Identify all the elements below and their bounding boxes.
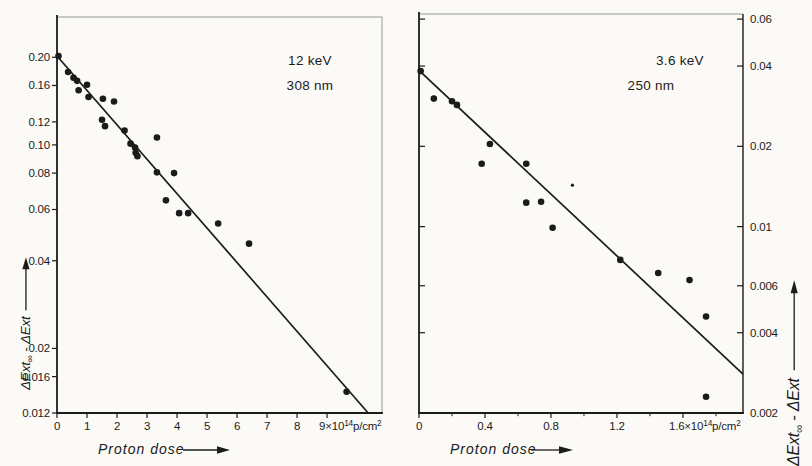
x-unit-label: 1.6×1014p/cm2 (669, 419, 741, 432)
data-point (538, 198, 545, 205)
x-tick-label: 0 (54, 420, 60, 432)
plots-canvas: 0.200.160.120.100.080.060.040.020.0160.0… (0, 0, 812, 466)
right-annotation-wavelength: 250 nm (596, 78, 706, 93)
x-tick-label: 1 (84, 420, 90, 432)
y-tick-label: 0.06 (750, 13, 772, 25)
x-tick-label: 7 (264, 420, 270, 432)
x-tick-label: 2 (114, 420, 120, 432)
data-point (703, 313, 710, 320)
data-point (343, 388, 350, 395)
data-point (154, 169, 161, 176)
y-tick-label: 0.04 (28, 255, 50, 267)
data-point (84, 81, 91, 88)
data-point (454, 102, 461, 109)
data-point (100, 96, 107, 103)
y-tick-label: 0.12 (28, 116, 50, 128)
data-point (134, 153, 141, 160)
x-tick-label: 1.2 (609, 420, 624, 432)
x-tick-label: 5 (204, 420, 210, 432)
data-point (55, 53, 62, 60)
data-point (478, 160, 485, 167)
right-arrow-icon (559, 446, 573, 454)
y-tick-label: 0.02 (750, 140, 772, 152)
data-point (703, 394, 710, 401)
y-tick-label: 0.006 (750, 280, 778, 292)
x-tick-label: 8 (294, 420, 300, 432)
x-tick-label: 0.8 (543, 420, 558, 432)
right-annotation-energy: 3.6 keV (625, 53, 735, 68)
data-point (417, 68, 424, 75)
data-point (523, 160, 530, 167)
x-tick-label: 6 (234, 420, 240, 432)
x-unit-label: 9×1014p/cm2 (319, 419, 382, 432)
fit-line (419, 70, 743, 374)
y-axis-title-group: ΔExt∞ - ΔExt (18, 257, 35, 391)
y-tick-label: 0.06 (28, 203, 50, 215)
right-arrow-icon (217, 446, 230, 454)
scatter-figure: 0.200.160.120.100.080.060.040.020.0160.0… (0, 0, 812, 466)
y-tick-label: 0.04 (750, 60, 772, 72)
x-tick-label: 0.4 (477, 420, 493, 432)
data-point (686, 277, 693, 284)
data-point (549, 224, 556, 231)
data-point (85, 94, 92, 101)
data-point (163, 197, 170, 204)
data-point (171, 170, 178, 177)
data-point (154, 134, 161, 141)
fit-line (57, 56, 368, 413)
data-point (176, 210, 183, 217)
up-arrow-icon (791, 280, 798, 293)
data-point (655, 270, 662, 277)
left-annotation-energy: 12 keV (255, 53, 365, 68)
y-tick-label: 0.004 (750, 327, 779, 339)
y-tick-label: 0.10 (28, 139, 50, 151)
y-tick-label: 0.012 (22, 407, 50, 419)
y-tick-label: 0.16 (28, 79, 50, 91)
data-point (74, 78, 81, 85)
y-tick-label: 0.01 (750, 221, 772, 233)
y-tick-label: 0.08 (28, 167, 50, 179)
left-xaxis-title: Proton dose (98, 441, 185, 457)
y-axis-title: ΔExt∞ - ΔExt (18, 315, 35, 391)
data-point (75, 87, 82, 94)
data-point-small (571, 184, 574, 187)
y-tick-label: 0.20 (28, 51, 50, 63)
data-point (121, 127, 128, 134)
data-point (99, 116, 106, 123)
y-axis-title-group: ΔExt∞ - ΔExt (785, 280, 805, 466)
data-point (617, 257, 624, 264)
y-tick-label: 0.002 (750, 407, 778, 419)
x-tick-label: 3 (144, 420, 150, 432)
data-point (65, 69, 72, 76)
left-annotation-wavelength: 308 nm (255, 78, 365, 93)
right-xaxis-title: Proton dose (450, 441, 537, 457)
y-axis-title: ΔExt∞ - ΔExt (785, 377, 805, 466)
data-point (487, 141, 494, 148)
data-point (111, 98, 118, 105)
data-point (185, 210, 192, 217)
data-point (246, 240, 253, 247)
x-tick-label: 4 (174, 420, 181, 432)
data-point (102, 123, 109, 130)
data-point (523, 199, 530, 206)
x-tick-label: 0 (416, 420, 422, 432)
data-point (431, 95, 438, 102)
data-point (215, 220, 222, 227)
